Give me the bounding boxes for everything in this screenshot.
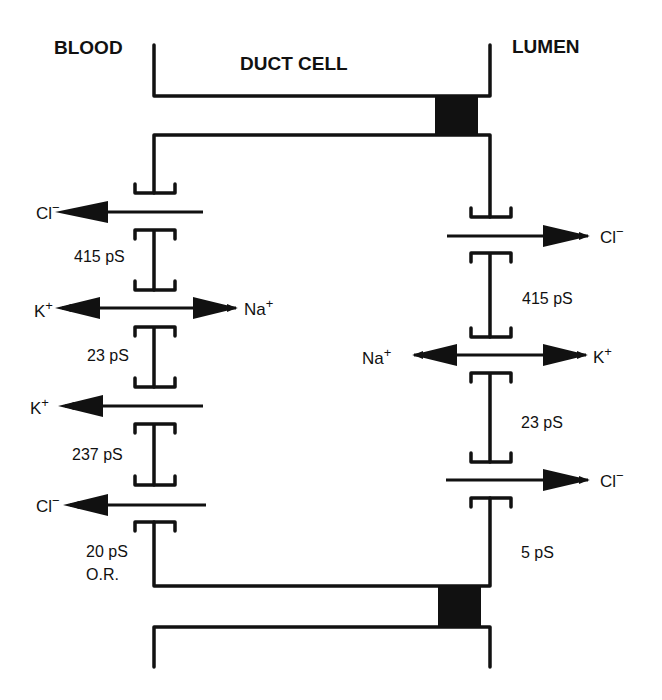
conductance-label: 415 pS	[522, 290, 573, 307]
tight-junction-upper	[435, 96, 478, 135]
conductance-label: 20 pS	[86, 543, 128, 560]
duct-cell-label: DUCT CELL	[240, 53, 348, 74]
conductance-label: 5 pS	[521, 544, 554, 561]
duct-cell-bottom-membrane	[154, 498, 490, 586]
conductance-label: 415 pS	[74, 248, 125, 265]
ion-label: Cl−	[600, 468, 624, 491]
ion-label: Na+	[244, 296, 273, 319]
blood-label: BLOOD	[54, 37, 123, 58]
apical-membrane	[471, 208, 511, 507]
ion-label: Cl−	[600, 224, 624, 247]
lower-cell-outline	[154, 627, 490, 667]
tight-junction-lower	[438, 586, 481, 627]
conductance-label: 237 pS	[72, 446, 123, 463]
duct-cell-top-membrane	[154, 135, 490, 217]
conductance-label: 23 pS	[87, 347, 129, 364]
ion-label: K+	[30, 395, 49, 418]
conductance-label: 23 pS	[521, 414, 563, 431]
basolateral-membrane	[135, 184, 175, 531]
ion-label: Na+	[362, 345, 391, 368]
ion-label: Cl−	[36, 200, 60, 223]
ion-label: K+	[593, 344, 612, 367]
ion-label: Cl−	[36, 493, 60, 516]
lumen-label: LUMEN	[512, 36, 580, 57]
ion-label: K+	[34, 298, 53, 321]
open-rectifier-label: O.R.	[86, 566, 119, 583]
duct-cell-diagram: BLOOD DUCT CELL LUMEN Cl− 415 pS K+ Na+ …	[0, 0, 662, 700]
